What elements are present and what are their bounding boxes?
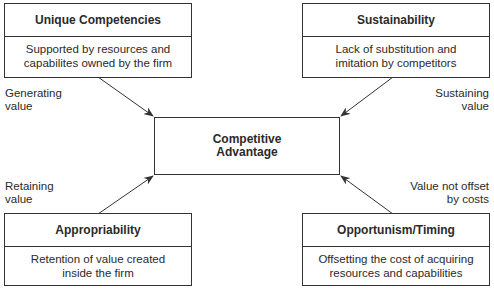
box-description: Lack of substitution andimitation by com… — [303, 37, 489, 75]
label-line: Retaining — [5, 180, 54, 192]
box-title: Appropriability — [5, 214, 191, 247]
desc-line: Retention of value created — [31, 253, 165, 265]
label-generating-value: Generatingvalue — [5, 87, 62, 113]
desc-line: inside the firm — [62, 267, 134, 279]
label-line: value — [5, 100, 33, 112]
competitive-advantage-box: CompetitiveAdvantage — [154, 117, 340, 175]
desc-line: Offsetting the cost of acquiring — [318, 253, 473, 265]
arrow-sustaining — [341, 77, 393, 116]
center-line: Advantage — [216, 145, 277, 159]
arrow-value-not-offset — [341, 176, 393, 214]
center-line: Competitive — [213, 132, 282, 146]
box-title: Opportunism/Timing — [303, 214, 489, 247]
label-line: Value not offset — [410, 180, 489, 192]
label-value-not-offset: Value not offsetby costs — [410, 180, 489, 206]
desc-line: resources and capabilities — [330, 267, 463, 279]
box-unique-competencies: Unique Competencies Supported by resourc… — [4, 3, 192, 78]
label-sustaining-value: Sustainingvalue — [435, 87, 489, 113]
label-line: value — [5, 193, 33, 205]
box-title: Sustainability — [303, 4, 489, 37]
desc-line: Lack of substitution and — [336, 43, 457, 55]
box-sustainability: Sustainability Lack of substitution andi… — [302, 3, 490, 78]
box-opportunism-timing: Opportunism/Timing Offsetting the cost o… — [302, 213, 490, 286]
box-title: Unique Competencies — [5, 4, 191, 37]
desc-line: imitation by competitors — [336, 57, 457, 69]
desc-line: Supported by resources and — [26, 43, 170, 55]
arrow-generating — [98, 77, 153, 116]
box-description: Retention of value createdinside the fir… — [5, 247, 191, 285]
arrow-retaining — [98, 176, 153, 214]
desc-line: capabilites owned by the firm — [24, 57, 172, 69]
label-line: Sustaining — [435, 87, 489, 99]
label-retaining-value: Retainingvalue — [5, 180, 54, 206]
box-description: Supported by resources andcapabilites ow… — [5, 37, 191, 75]
box-description: Offsetting the cost of acquiringresource… — [303, 247, 489, 285]
box-appropriability: Appropriability Retention of value creat… — [4, 213, 192, 286]
label-line: Generating — [5, 87, 62, 99]
label-line: value — [462, 100, 490, 112]
label-line: by costs — [447, 193, 489, 205]
